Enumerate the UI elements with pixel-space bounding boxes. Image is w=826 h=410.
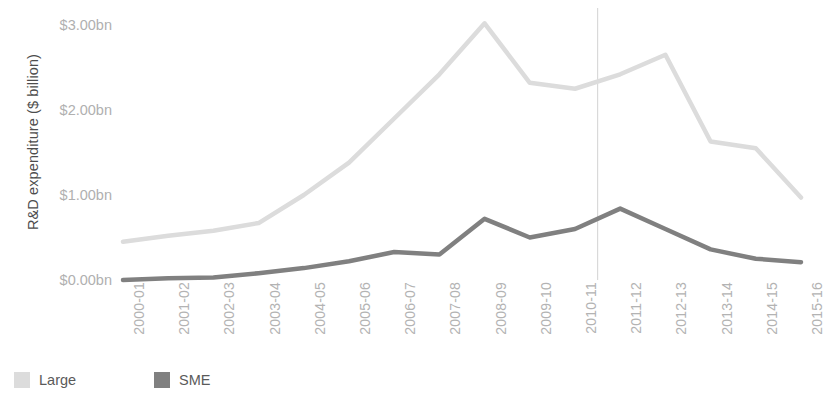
legend-item-sme[interactable]: SME <box>154 372 210 388</box>
legend-item-large[interactable]: Large <box>14 372 76 388</box>
y-axis-tick-label: $1.00bn <box>34 187 112 203</box>
x-axis-tick-label: 2015-16 <box>808 282 826 362</box>
x-axis-tick-label: 2013-14 <box>718 282 736 362</box>
legend-label: Large <box>39 372 76 388</box>
x-axis-tick-label: 2005-06 <box>356 282 374 362</box>
chart-legend: LargeSME <box>14 372 289 388</box>
x-axis-tick-label: 2007-08 <box>446 282 464 362</box>
legend-swatch-icon <box>154 372 170 388</box>
series-line-large <box>123 23 801 241</box>
x-axis-tick-label: 2014-15 <box>763 282 781 362</box>
x-axis-tick-label: 2003-04 <box>266 282 284 362</box>
series-line-sme <box>123 209 801 280</box>
plot-svg <box>118 8 806 280</box>
plot-area <box>118 8 806 280</box>
x-axis-tick-label: 2001-02 <box>175 282 193 362</box>
x-axis-tick-label: 2004-05 <box>311 282 329 362</box>
x-axis-tick-label: 2002-03 <box>220 282 238 362</box>
x-axis-tick-label: 2010-11 <box>582 282 600 362</box>
x-axis-tick-label: 2012-13 <box>672 282 690 362</box>
legend-swatch-icon <box>14 372 30 388</box>
y-axis-tick-label: $2.00bn <box>34 102 112 118</box>
legend-label: SME <box>179 372 210 388</box>
x-axis-tick-labels: 2000-012001-022002-032003-042004-052005-… <box>118 282 806 362</box>
y-axis-tick-label: $0.00bn <box>34 272 112 288</box>
x-axis-tick-label: 2008-09 <box>492 282 510 362</box>
x-axis-tick-label: 2006-07 <box>401 282 419 362</box>
x-axis-tick-label: 2000-01 <box>130 282 148 362</box>
x-axis-tick-label: 2011-12 <box>627 282 645 362</box>
x-axis-tick-label: 2009-10 <box>537 282 555 362</box>
y-axis-tick-labels: $0.00bn$1.00bn$2.00bn$3.00bn <box>34 0 112 410</box>
y-axis-tick-label: $3.00bn <box>34 17 112 33</box>
